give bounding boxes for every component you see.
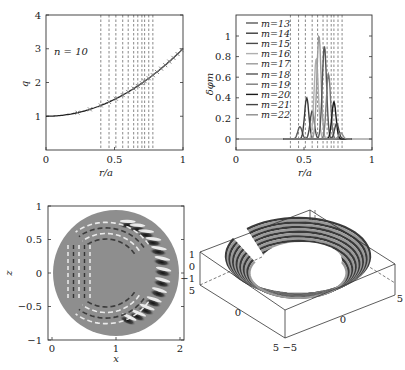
torus-3d-panel: 1 0 −1 5 0 5 −5 0 5 [180, 210, 403, 353]
q-ylabel: q [19, 81, 30, 87]
svg-text:2: 2 [177, 343, 183, 354]
svg-text:1: 1 [36, 201, 42, 212]
svg-text:0: 0 [235, 307, 241, 318]
q-axis-ticks: 00.511234 [35, 10, 187, 166]
n-annotation: n = 10 [54, 46, 89, 57]
svg-text:4: 4 [35, 10, 41, 21]
q-markers [76, 48, 184, 115]
svg-text:0: 0 [36, 268, 42, 279]
svg-text:0: 0 [340, 314, 346, 325]
svg-text:2: 2 [35, 77, 41, 88]
q-curve [46, 49, 183, 117]
legend: m=13m=14m=15m=16m=17m=18m=19m=20m=21m=22 [246, 18, 291, 121]
svg-text:0.5: 0.5 [107, 154, 123, 165]
legend-item: m=22 [246, 109, 290, 120]
torus-surface [226, 218, 370, 298]
svg-text:0.2: 0.2 [215, 113, 231, 124]
svg-text:0: 0 [43, 154, 49, 165]
figure: 00.511234 n = 10 r/a q 00.5100.20.40.60.… [0, 0, 405, 370]
svg-text:1: 1 [189, 249, 195, 260]
mode-ylabel: δφm [204, 73, 215, 96]
svg-text:0.6: 0.6 [215, 72, 231, 83]
svg-text:−0.5: −0.5 [18, 301, 42, 312]
svg-text:5: 5 [397, 293, 403, 304]
rational-surface-lines [101, 15, 153, 150]
svg-text:0.5: 0.5 [26, 234, 42, 245]
svg-text:0.8: 0.8 [215, 51, 231, 62]
svg-text:m=22: m=22 [261, 109, 290, 120]
q-axes-box [46, 15, 183, 150]
svg-text:0.4: 0.4 [215, 92, 231, 103]
svg-text:0: 0 [225, 134, 231, 145]
svg-text:0: 0 [233, 154, 239, 165]
mode-axis-ticks: 00.5100.20.40.60.81 [215, 31, 375, 166]
cross-xlabel: x [113, 353, 119, 364]
mode-axes-box [236, 15, 372, 150]
svg-text:5 −5: 5 −5 [273, 342, 297, 353]
svg-text:1: 1 [35, 111, 41, 122]
mode-structure-panel: 00.5100.20.40.60.81 m=13m=14m=15m=16m=17… [204, 15, 375, 178]
svg-text:1: 1 [225, 31, 231, 42]
svg-text:1: 1 [369, 154, 375, 165]
svg-text:0: 0 [49, 343, 55, 354]
q-xlabel: r/a [99, 167, 113, 178]
svg-text:5: 5 [189, 285, 195, 296]
svg-text:−1: −1 [27, 335, 42, 346]
cross-ylabel: z [3, 270, 14, 277]
svg-text:3: 3 [35, 43, 41, 54]
svg-text:1: 1 [180, 154, 186, 165]
svg-text:0.5: 0.5 [296, 154, 312, 165]
svg-text:−1: −1 [180, 273, 195, 284]
mode-xlabel: r/a [298, 167, 312, 178]
q-profile-panel: 00.511234 n = 10 r/a q [19, 10, 186, 179]
cross-section-panel: 012−1−0.500.51 x z [3, 201, 184, 365]
svg-text:0: 0 [189, 261, 195, 272]
